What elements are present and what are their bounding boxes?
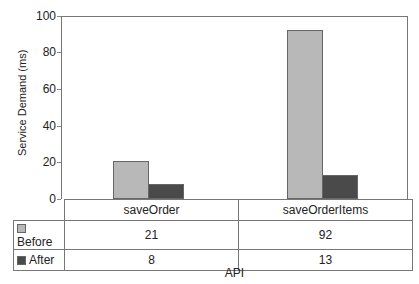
x-axis-label: API <box>61 266 408 280</box>
legend-swatch-icon <box>17 256 26 265</box>
y-axis-label: Service Demand (ms) <box>16 56 28 156</box>
legend-before: Before <box>14 221 65 250</box>
y-tick: 40 <box>30 119 56 133</box>
table-corner <box>14 200 65 221</box>
bar-after-saveOrderItems <box>322 175 358 199</box>
y-tick: 100 <box>30 9 56 23</box>
plot-area <box>61 16 408 199</box>
category-header: saveOrderItems <box>239 200 413 221</box>
table-cell: 92 <box>239 221 413 250</box>
table-row: Before 21 92 <box>14 221 413 250</box>
data-table: saveOrder saveOrderItems Before 21 92 Af… <box>13 199 413 271</box>
legend-swatch-icon <box>17 224 26 233</box>
category-header: saveOrder <box>65 200 239 221</box>
bar-before-saveOrderItems <box>287 30 323 199</box>
y-tick: 80 <box>30 45 56 59</box>
y-tick: 20 <box>30 155 56 169</box>
table-cell: 21 <box>65 221 239 250</box>
bar-before-saveOrder <box>113 161 149 199</box>
bar-after-saveOrder <box>148 184 184 199</box>
y-tick: 60 <box>30 82 56 96</box>
legend-after: After <box>14 250 65 271</box>
